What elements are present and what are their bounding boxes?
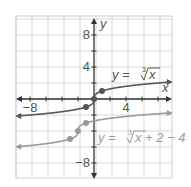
- data-point: [91, 96, 97, 102]
- y-tick-label: 8: [83, 27, 90, 42]
- data-point: [83, 104, 89, 110]
- y-tick-label: −8: [75, 155, 90, 170]
- radical-index: 3: [142, 66, 146, 73]
- data-point: [67, 136, 73, 142]
- equation-right: x + 2 − 4: [134, 130, 186, 145]
- x-axis-label: x: [161, 80, 169, 95]
- y-axis-label: y: [99, 16, 108, 31]
- x-tick-label: 4: [122, 100, 129, 115]
- x-axis-arrow-left-icon: [16, 96, 22, 102]
- equation-left: y =: [111, 67, 130, 82]
- x-axis-arrow-right-icon: [166, 96, 172, 102]
- equation-right: x: [148, 67, 156, 82]
- data-point: [99, 88, 105, 94]
- equation-label-cube-root: y = 3x: [111, 66, 160, 82]
- equation-label-transformed: y = 3x + 2 − 4: [97, 129, 186, 145]
- y-tick-label: 4: [83, 59, 90, 74]
- data-point: [75, 128, 81, 134]
- x-tick-label: −8: [23, 100, 38, 115]
- data-point: [83, 120, 89, 126]
- cube-root-graph: −8484−8xyy = 3xy = 3x + 2 − 4: [0, 0, 191, 187]
- radical-index: 3: [128, 129, 132, 136]
- equation-left: y =: [97, 130, 116, 145]
